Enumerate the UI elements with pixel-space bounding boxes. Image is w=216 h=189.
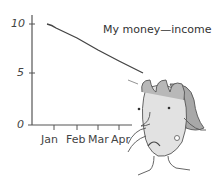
y-tick-label-0: 0 [17, 119, 24, 130]
x-tick-label-apr: Apr [111, 134, 130, 145]
line-connector [128, 80, 138, 84]
left-eye [138, 108, 141, 111]
x-tick-label-feb: Feb [66, 134, 85, 145]
y-tick-label-5: 5 [17, 67, 24, 78]
shoulders [138, 168, 190, 175]
y-tick-label-10: 10 [11, 18, 25, 29]
hair-strands-left [128, 128, 146, 152]
earring [175, 136, 180, 141]
x-tick-label-mar: Mar [88, 134, 109, 145]
right-eye [168, 107, 171, 110]
chart-title: My money—income [103, 24, 211, 35]
sad-woman-illustration [128, 80, 206, 175]
x-tick-label-jan: Jan [41, 134, 58, 145]
neck [150, 156, 176, 170]
